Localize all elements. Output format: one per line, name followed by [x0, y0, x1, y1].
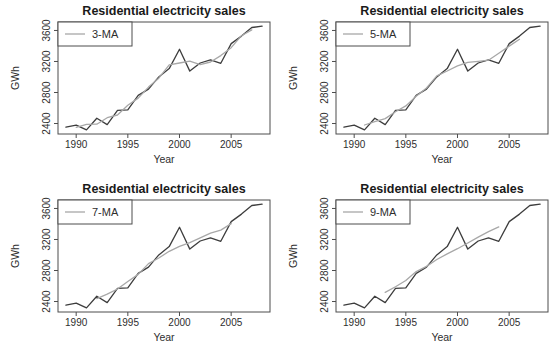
x-tick-label: 2005 [220, 139, 243, 150]
chart-title: Residential electricity sales [82, 4, 245, 18]
y-axis-label: GWh [287, 66, 299, 90]
legend-label: 9-MA [370, 206, 397, 218]
y-tick-label: 2800 [41, 81, 52, 104]
y-tick-label: 2800 [41, 259, 52, 282]
x-tick-label: 2005 [498, 139, 521, 150]
x-tick-label: 1990 [343, 139, 366, 150]
panel-5ma: Residential electricity sales19901995200… [278, 0, 557, 178]
chart-7ma: Residential electricity sales19901995200… [0, 178, 278, 356]
x-tick-label: 2005 [498, 317, 521, 328]
y-tick-label: 3200 [319, 228, 330, 251]
legend-label: 3-MA [92, 28, 119, 40]
x-tick-label: 2000 [168, 317, 191, 328]
y-tick-label: 3600 [319, 19, 330, 42]
chart-5ma: Residential electricity sales19901995200… [278, 0, 556, 178]
chart-9ma: Residential electricity sales19901995200… [278, 178, 556, 356]
x-tick-label: 2005 [220, 317, 243, 328]
chart-title: Residential electricity sales [360, 4, 523, 18]
x-axis-label: Year [431, 331, 453, 343]
x-tick-label: 1990 [65, 317, 88, 328]
chart-title: Residential electricity sales [360, 182, 523, 196]
y-axis-label: GWh [9, 66, 21, 90]
legend-label: 7-MA [92, 206, 119, 218]
x-tick-label: 2000 [168, 139, 191, 150]
y-tick-label: 3200 [319, 50, 330, 73]
x-axis-label: Year [153, 331, 175, 343]
y-tick-label: 2800 [319, 81, 330, 104]
x-tick-label: 2000 [446, 139, 469, 150]
x-tick-label: 1990 [343, 317, 366, 328]
y-tick-label: 3600 [41, 197, 52, 220]
moving-average-figure: Residential electricity sales19901995200… [0, 0, 557, 357]
y-axis-label: GWh [9, 244, 21, 268]
x-axis-label: Year [153, 153, 175, 165]
y-tick-label: 2800 [319, 259, 330, 282]
x-tick-label: 1995 [117, 139, 140, 150]
panel-7ma: Residential electricity sales19901995200… [0, 178, 278, 357]
chart-title: Residential electricity sales [82, 182, 245, 196]
y-tick-label: 3600 [41, 19, 52, 42]
x-tick-label: 1995 [117, 317, 140, 328]
x-tick-label: 1990 [65, 139, 88, 150]
y-tick-label: 3200 [41, 50, 52, 73]
legend-label: 5-MA [370, 28, 397, 40]
y-tick-label: 2400 [319, 112, 330, 135]
x-tick-label: 1995 [395, 317, 418, 328]
series-7-MA [97, 224, 231, 299]
y-tick-label: 3600 [319, 197, 330, 220]
series-9-MA [385, 227, 499, 293]
y-tick-label: 2400 [319, 290, 330, 313]
panel-9ma: Residential electricity sales19901995200… [278, 178, 557, 357]
panel-3ma: Residential electricity sales19901995200… [0, 0, 278, 178]
y-tick-label: 2400 [41, 290, 52, 313]
x-tick-label: 2000 [446, 317, 469, 328]
y-tick-label: 2400 [41, 112, 52, 135]
y-tick-label: 3200 [41, 228, 52, 251]
x-tick-label: 1995 [395, 139, 418, 150]
chart-3ma: Residential electricity sales19901995200… [0, 0, 278, 178]
y-axis-label: GWh [287, 244, 299, 268]
series-5-MA [365, 39, 520, 125]
x-axis-label: Year [431, 153, 453, 165]
